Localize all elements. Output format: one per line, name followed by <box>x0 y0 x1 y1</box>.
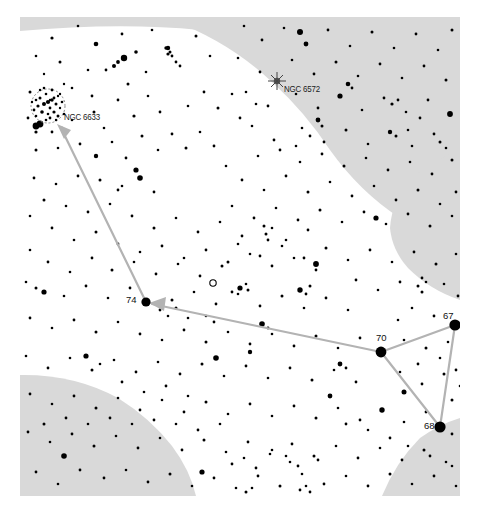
sky-canvas <box>0 0 478 509</box>
bright-star-near-cluster <box>33 123 40 130</box>
star-label-74: 74 <box>126 295 137 305</box>
star-label-67: 67 <box>443 311 454 321</box>
ngc6633-label: NGC 6633 <box>64 113 100 122</box>
star-68-dot <box>434 421 445 432</box>
star-74-dot <box>141 297 150 306</box>
star-label-68: 68 <box>424 421 435 431</box>
star-70-dot <box>376 347 387 358</box>
ngc6572-label: NGC 6572 <box>284 85 320 94</box>
star-chart: NGC 6633 NGC 6572 74 70 67 68 <box>0 0 478 509</box>
star-67-dot <box>449 319 460 330</box>
star-label-70: 70 <box>376 333 387 343</box>
